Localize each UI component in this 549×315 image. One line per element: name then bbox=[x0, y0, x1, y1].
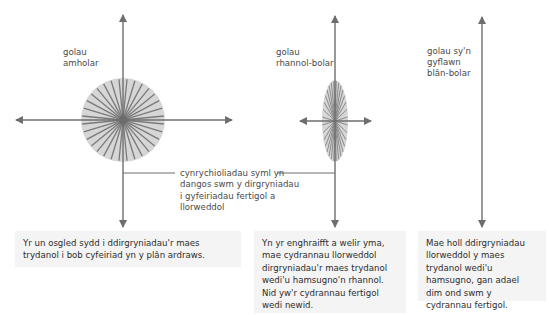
plane-polarized-label: golau sy'n gyflawn blân-bolar bbox=[427, 46, 471, 79]
annotation-label: cynrychioliadau syml yn dangos swm y dir… bbox=[180, 168, 299, 213]
unpolarized-label: golau amholar bbox=[63, 47, 99, 69]
caption-text: Yr un osgled sydd i ddirgryniadau'r maes… bbox=[23, 238, 205, 260]
caption-text: Mae holl ddirgryniadau llorweddol y maes… bbox=[426, 238, 525, 310]
caption-partial-polarized: Yn yr enghraifft a welir yma, mae cydran… bbox=[254, 231, 406, 313]
caption-unpolarized: Yr un osgled sydd i ddirgryniadau'r maes… bbox=[15, 231, 241, 267]
partial-polarized-label: golau rhannol-bolar bbox=[276, 47, 334, 69]
caption-text: Yn yr enghraifft a welir yma, mae cydran… bbox=[262, 238, 387, 310]
caption-plane-polarized: Mae holl ddirgryniadau llorweddol y maes… bbox=[418, 231, 546, 301]
